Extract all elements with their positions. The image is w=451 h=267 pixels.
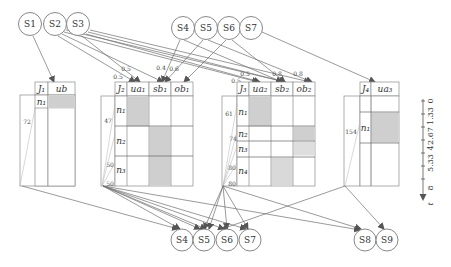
header-ua1: ua₁ <box>131 84 146 94</box>
duration-label: 61 <box>225 110 233 117</box>
edge-weight: 0.5 <box>113 73 123 80</box>
node-s8[interactable]: S8 <box>354 229 376 251</box>
edge-weight: 0.5 <box>240 70 250 77</box>
header-ua2: ua₂ <box>253 84 268 94</box>
axis-tick: 4 <box>426 145 435 150</box>
table-j1: J₁ ub n₁ 72 <box>20 82 75 186</box>
axis-arrow-icon <box>420 194 427 201</box>
row-n1: n₁ <box>116 105 125 115</box>
node-s5[interactable]: S5 <box>195 17 218 40</box>
node-label: S2 <box>49 19 61 29</box>
header-ob2: ob₂ <box>297 84 312 94</box>
node-label: S5 <box>198 235 210 245</box>
node-s5-bottom[interactable]: S5 <box>193 229 215 251</box>
header-j3: J₃ <box>237 84 247 94</box>
row-n2: n₂ <box>238 129 248 139</box>
duration-label: 47 <box>104 117 112 124</box>
node-s7-bottom[interactable]: S7 <box>239 229 261 251</box>
time-axis: 0 1.33 2.67 4 5.33 8 t <box>420 98 436 205</box>
node-label: S8 <box>359 235 371 245</box>
duration-label: 154 <box>345 128 357 135</box>
edge-weight: 0.8 <box>293 70 303 77</box>
node-label: S7 <box>244 235 256 245</box>
axis-tick: 5.33 <box>426 154 435 172</box>
top-nodes: S1 S2 S3 S4 S5 S6 S7 <box>19 13 263 40</box>
row-n3: n₃ <box>238 144 248 154</box>
edge-weight: 0.6 <box>169 65 179 72</box>
row-n4: n₄ <box>238 166 248 176</box>
header-sb2: sb₂ <box>275 84 289 94</box>
edge-weight: 0.5 <box>121 65 131 72</box>
node-label: S7 <box>245 23 257 33</box>
header-ub: ub <box>56 84 68 94</box>
node-label: S9 <box>381 235 393 245</box>
node-label: S3 <box>72 19 84 29</box>
node-label: S1 <box>24 19 36 29</box>
node-s6-bottom[interactable]: S6 <box>216 229 238 251</box>
workflow-diagram: 0.5 0.5 0.4 0.6 0.5 0.5 0.8 0.8 J₁ ub n₁… <box>0 0 451 267</box>
axis-tick: 1.33 <box>426 107 435 125</box>
table-j4: J₄ ua₃ n₁ 154 <box>344 82 399 186</box>
node-s7[interactable]: S7 <box>240 17 263 40</box>
header-j2: J₂ <box>115 84 125 94</box>
row-n3: n₃ <box>116 165 126 175</box>
node-s4-bottom[interactable]: S4 <box>171 229 193 251</box>
node-label: S6 <box>221 235 233 245</box>
axis-tick: 8 <box>426 185 435 190</box>
duration-label: 80 <box>228 180 236 187</box>
row-n1: n₁ <box>361 123 370 133</box>
header-j4: J₄ <box>360 84 370 94</box>
header-ua3: ua₃ <box>378 84 393 94</box>
node-s1[interactable]: S1 <box>19 13 42 36</box>
duration-label: 50 <box>106 180 114 187</box>
node-s9[interactable]: S9 <box>376 229 398 251</box>
axis-label: t <box>426 202 435 206</box>
bottom-edges <box>22 186 384 230</box>
axis-tick: 0 <box>426 98 435 103</box>
header-ob1: ob₁ <box>175 84 190 94</box>
row-n2: n₂ <box>116 136 126 146</box>
edge-weight: 0.8 <box>272 70 282 77</box>
node-s2[interactable]: S2 <box>44 13 67 36</box>
edge-weight: 0.4 <box>156 64 166 71</box>
row-n1: n₁ <box>238 107 247 117</box>
bottom-nodes: S4 S5 S6 S7 S8 S9 <box>171 229 398 251</box>
node-label: S6 <box>223 23 235 33</box>
axis-tick: 2.67 <box>426 127 435 145</box>
row-n1: n₁ <box>37 97 46 107</box>
duration-label: 72 <box>23 118 31 125</box>
table-j3: J₃ ua₂ sb₂ ob₂ n₁ n₂ n₃ n₄ 61 74 80 80 <box>222 82 315 187</box>
node-s4[interactable]: S4 <box>172 17 195 40</box>
node-label: S4 <box>176 235 188 245</box>
header-sb1: sb₁ <box>153 84 167 94</box>
node-s6[interactable]: S6 <box>218 17 241 40</box>
node-label: S5 <box>200 23 212 33</box>
header-j1: J₁ <box>36 84 45 94</box>
node-label: S4 <box>177 23 189 33</box>
node-s3[interactable]: S3 <box>67 13 90 36</box>
table-j2: J₂ ua₁ sb₁ ob₁ n₁ n₂ n₃ 47 50 50 <box>101 82 193 187</box>
